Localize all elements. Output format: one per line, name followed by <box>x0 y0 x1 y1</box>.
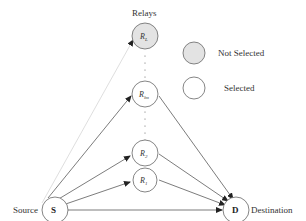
destination-label: Destination <box>251 205 293 215</box>
relay-selection-diagram: Relays RL Rlm R2 R1 S Source <box>0 0 306 221</box>
legend-label-selected: Selected <box>224 83 255 93</box>
edge-source-to-relay-L <box>42 40 133 203</box>
legend-swatch-not-selected <box>183 42 205 64</box>
source-node: S <box>42 197 68 221</box>
relay-node-L: RL <box>132 23 158 49</box>
relay-node-lm: Rlm <box>132 81 158 107</box>
ellipsis-dots-lower <box>144 111 145 140</box>
svg-text:S: S <box>51 205 56 215</box>
relay-node-1: R1 <box>133 168 157 192</box>
edge-source-to-relay-lm <box>48 96 131 198</box>
legend: Not Selected Selected <box>183 42 265 99</box>
relays-title: Relays <box>132 8 157 18</box>
edge-source-to-relay-2 <box>52 156 130 203</box>
source-label: Source <box>13 205 38 215</box>
edge-relay-lm-to-destination <box>159 96 233 199</box>
relay-node-2: R2 <box>132 140 158 166</box>
legend-swatch-selected <box>183 77 205 99</box>
legend-label-not-selected: Not Selected <box>218 48 265 58</box>
svg-text:D: D <box>232 205 239 215</box>
destination-node: D <box>223 197 249 221</box>
ellipsis-dots-upper <box>144 55 145 77</box>
